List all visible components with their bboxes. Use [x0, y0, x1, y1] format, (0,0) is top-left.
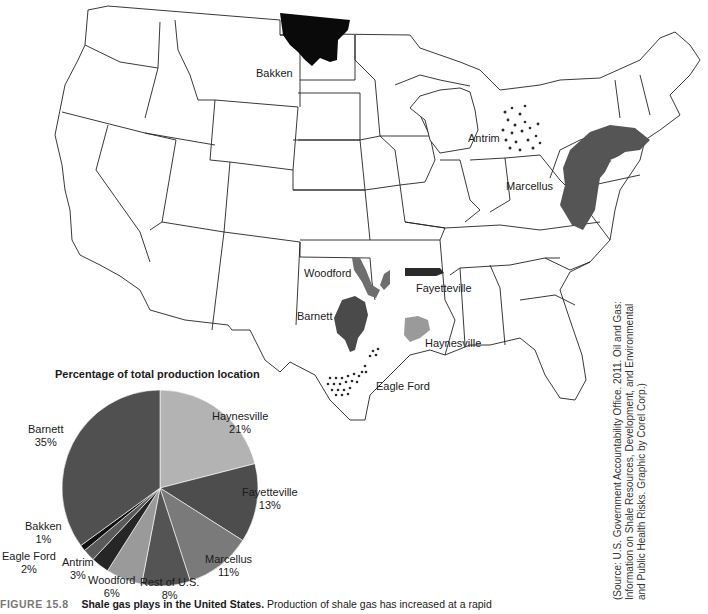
pie-label-woodford: Woodford 6%: [88, 574, 136, 600]
label-eagle-ford: Eagle Ford: [376, 380, 430, 392]
pie-label-marcellus: Marcellus 11%: [205, 553, 252, 579]
figure-heading: Shale gas plays in the United States.: [81, 598, 264, 610]
figure-caption: FIGURE 15.8 Shale gas plays in the Unite…: [0, 598, 492, 610]
label-antrim: Antrim: [468, 132, 500, 144]
label-woodford: Woodford: [304, 267, 352, 279]
pie-label-barnett: Barnett 35%: [28, 423, 63, 449]
label-barnett: Barnett: [297, 310, 332, 322]
label-bakken: Bakken: [256, 67, 293, 79]
pie-title: Percentage of total production location: [55, 368, 260, 380]
pie-label-haynesville: Haynesville 21%: [212, 410, 268, 436]
figure-text: Production of shale gas has increased at…: [267, 598, 492, 610]
source-citation: (Source: U.S. Government Accountability …: [612, 300, 648, 600]
us-outline: [55, 6, 700, 420]
figure-number: FIGURE 15.8: [0, 598, 69, 610]
pie-label-bakken: Bakken 1%: [25, 520, 62, 546]
fayetteville-play: [405, 268, 444, 276]
pie-label-eagle-ford: Eagle Ford 2%: [2, 550, 56, 576]
pie-label-fayetteville: Fayetteville 13%: [242, 486, 298, 512]
label-fayetteville: Fayetteville: [416, 282, 472, 294]
label-marcellus: Marcellus: [506, 180, 553, 192]
label-haynesville: Haynesville: [425, 337, 481, 349]
pie-label-antrim: Antrim 3%: [62, 556, 94, 582]
